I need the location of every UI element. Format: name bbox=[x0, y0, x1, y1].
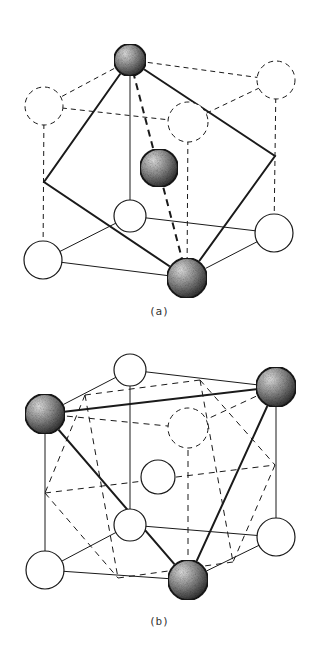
crystal-diagram bbox=[0, 0, 312, 645]
sphere-shaded bbox=[168, 560, 208, 600]
sphere-open bbox=[255, 214, 293, 252]
panel-a-label: (a) bbox=[149, 305, 169, 318]
sphere-open bbox=[26, 551, 64, 589]
sphere-open bbox=[257, 518, 295, 556]
panel-b bbox=[25, 354, 296, 600]
sphere-dashed bbox=[168, 408, 208, 448]
panel-b-label: (b) bbox=[149, 615, 169, 628]
sphere-dashed bbox=[168, 102, 208, 142]
sphere-open bbox=[114, 354, 146, 386]
sphere-open bbox=[24, 241, 62, 279]
sphere-dashed bbox=[257, 61, 295, 99]
sphere-shaded bbox=[167, 258, 207, 298]
sphere-dashed bbox=[25, 87, 63, 125]
sphere-open bbox=[141, 460, 175, 494]
sphere-open bbox=[114, 200, 146, 232]
sphere-open bbox=[114, 509, 146, 541]
sphere-shaded bbox=[114, 44, 146, 76]
sphere-shaded bbox=[25, 394, 65, 434]
sphere-shaded bbox=[140, 149, 178, 187]
sphere-shaded bbox=[256, 367, 296, 407]
panel-a bbox=[24, 44, 295, 298]
